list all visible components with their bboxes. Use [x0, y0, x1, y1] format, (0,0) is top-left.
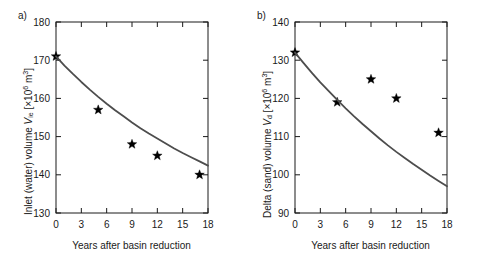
panel-a-yaxis-subscript: ie	[27, 112, 34, 117]
panel-b-yaxis-units-exp: 6	[261, 89, 268, 93]
data-point-star	[127, 139, 137, 148]
y-tick-label: 90	[278, 208, 290, 219]
data-point-star	[366, 74, 376, 83]
x-tick-label: 12	[391, 219, 403, 230]
x-tick-label: 0	[292, 219, 298, 230]
panel-b-yaxis-prefix: Delta (sand) volume	[262, 126, 273, 218]
y-tick-label: 140	[33, 169, 50, 180]
y-tick-label: 120	[272, 93, 289, 104]
x-tick-label: 18	[202, 219, 214, 230]
plot-frame	[56, 22, 208, 213]
panel-a-yaxis-symbol: V	[23, 118, 34, 125]
x-tick-label: 18	[441, 219, 453, 230]
y-tick-label: 150	[33, 131, 50, 142]
panel-a-yaxis-title: Inlet (water) volume Vie [×106 m3]	[22, 68, 34, 215]
panel-b-yaxis-units-end: ]	[262, 71, 273, 74]
y-tick-label: 160	[33, 93, 50, 104]
x-tick-label: 9	[368, 219, 374, 230]
panel-b-xaxis-title: Years after basin reduction	[283, 240, 458, 251]
y-tick-label: 180	[33, 17, 50, 28]
x-tick-label: 15	[177, 219, 189, 230]
data-point-star	[93, 105, 103, 114]
y-tick-label: 130	[33, 208, 50, 219]
panel-a-plot: 0369121518130140150160170180	[0, 0, 238, 265]
panel-a: a) 0369121518130140150160170180 Years af…	[0, 0, 238, 265]
panel-b-yaxis-subscript: d	[266, 115, 273, 119]
panel-a-yaxis-units-exp: 6	[22, 86, 29, 90]
data-point-star	[195, 170, 205, 179]
y-tick-label: 130	[272, 55, 289, 66]
x-tick-label: 3	[79, 219, 85, 230]
panel-b-yaxis-units-open: [×10	[262, 93, 273, 116]
data-point-star	[332, 97, 342, 106]
panel-a-yaxis-units-open: [×10	[23, 90, 34, 113]
panel-b-yaxis-units-mid: m	[262, 78, 273, 89]
panel-a-yaxis-prefix: Inlet (water) volume	[23, 124, 34, 215]
panel-b-yaxis-title: Delta (sand) volume Vd [×106 m3]	[261, 71, 273, 218]
panel-a-xaxis-title: Years after basin reduction	[44, 240, 219, 251]
panel-a-yaxis-units-mid: m	[23, 75, 34, 86]
plot-frame	[295, 22, 447, 213]
data-point-star	[392, 93, 402, 102]
panel-b-plot: 036912151890100110120130140	[239, 0, 477, 265]
fit-curve	[295, 53, 447, 187]
x-tick-label: 15	[416, 219, 428, 230]
x-tick-label: 12	[152, 219, 164, 230]
y-tick-label: 100	[272, 169, 289, 180]
panel-b-yaxis-units-exp2: 3	[261, 74, 268, 78]
y-tick-label: 170	[33, 55, 50, 66]
x-tick-label: 0	[53, 219, 59, 230]
figure-container: a) 0369121518130140150160170180 Years af…	[0, 0, 477, 265]
data-point-star	[153, 151, 163, 160]
panel-b-yaxis-symbol: V	[262, 119, 273, 126]
fit-curve	[56, 56, 208, 165]
data-point-star	[434, 128, 444, 137]
y-tick-label: 140	[272, 17, 289, 28]
x-tick-label: 6	[343, 219, 349, 230]
panel-a-yaxis-units-end: ]	[23, 68, 34, 71]
x-tick-label: 3	[318, 219, 324, 230]
panel-a-yaxis-units-exp2: 3	[22, 71, 29, 75]
x-tick-label: 6	[104, 219, 110, 230]
x-tick-label: 9	[129, 219, 135, 230]
y-tick-label: 110	[273, 131, 289, 142]
panel-b: b) 036912151890100110120130140 Years aft…	[239, 0, 477, 265]
